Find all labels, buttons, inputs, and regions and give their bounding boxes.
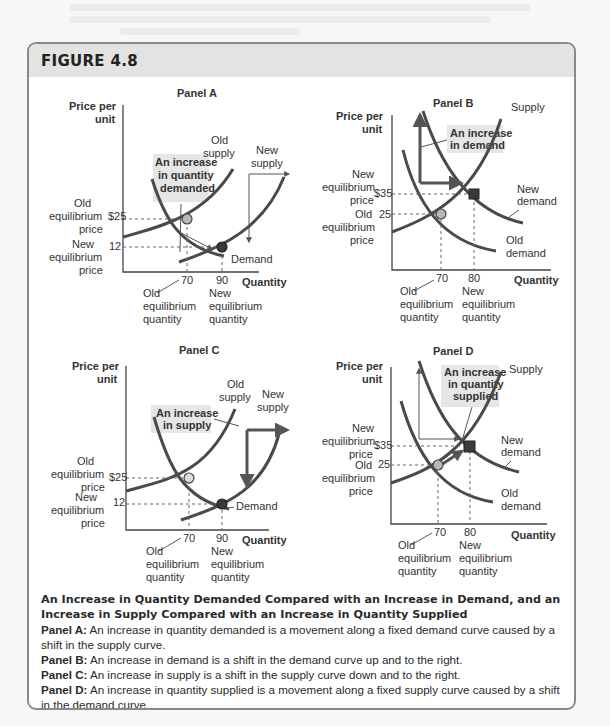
y-tick-caption: price (79, 264, 103, 276)
x-tick-caption: New (211, 545, 233, 557)
y-tick-caption: equilibrium (322, 181, 375, 193)
caption-panel-a: Panel A: An increase in quantity demande… (41, 622, 566, 652)
caption-text: An increase in demand is a shift in the … (87, 653, 462, 666)
y-tick-caption: price (350, 234, 374, 246)
curve-label: demand (501, 446, 541, 458)
figure-box: FIGURE 4.8 Panel A Price per unit An inc… (27, 42, 576, 710)
new-equilibrium-point (469, 189, 479, 199)
callout-text: An increase (156, 407, 218, 419)
guide-lines (392, 194, 474, 270)
y-tick-caption: equilibrium (49, 210, 102, 222)
x-tick-caption: equilibrium (209, 300, 262, 312)
curve-label: demand (506, 247, 546, 259)
y-tick-caption: equilibrium (49, 251, 102, 263)
caption-panel-d: Panel D: An increase in quantity supplie… (41, 682, 566, 710)
y-tick: 12 (109, 240, 121, 252)
caption-label: Panel D: (41, 683, 87, 696)
x-tick-caption: equilibrium (398, 552, 451, 564)
x-tick-caption: quantity (211, 571, 250, 583)
x-tick-caption: equilibrium (462, 298, 515, 310)
x-tick: 80 (464, 526, 476, 538)
curve-label: supply (257, 401, 289, 413)
y-axis-label-2: unit (95, 113, 115, 125)
panel-b: Panel B Price per unit An increase in de… (301, 77, 576, 327)
curve-label: Old (227, 378, 244, 390)
callout-text: in quantity (158, 169, 214, 181)
y-tick-caption: price (350, 194, 374, 206)
label-leader (509, 210, 519, 217)
curve-label: Demand (236, 500, 278, 512)
y-tick-caption: New (352, 168, 374, 180)
y-tick-caption: equilibrium (322, 435, 375, 447)
x-tick-caption: Old (146, 545, 163, 557)
callout-text: in demand (450, 139, 505, 151)
y-tick: $35 (374, 187, 392, 199)
curve-label: demand (501, 500, 541, 512)
caption-text: An increase in supply is a shift in the … (87, 668, 460, 681)
panel-title: Panel A (177, 87, 217, 99)
old-equilibrium-point (436, 209, 446, 219)
y-tick: 12 (113, 496, 125, 508)
x-tick: 80 (468, 272, 480, 284)
curve-label: Old (501, 487, 518, 499)
x-tick-caption: New (209, 287, 231, 299)
x-axis-label: Quantity (514, 274, 559, 286)
x-tick-caption: equilibrium (459, 552, 512, 564)
y-axis-label: Price per (336, 110, 384, 122)
x-tick: 70 (436, 272, 448, 284)
guide-lines (126, 504, 222, 530)
figure-title: FIGURE 4.8 (41, 52, 138, 70)
x-tick-caption: quantity (462, 311, 501, 323)
x-tick-caption: equilibrium (143, 300, 196, 312)
old-equilibrium-point (433, 460, 443, 470)
curve-label: New (501, 434, 523, 446)
x-tick: 70 (183, 532, 195, 544)
label-leader (229, 507, 234, 508)
x-tick-caption: equilibrium (211, 558, 264, 570)
background-text (120, 28, 300, 35)
y-tick-caption: Old (77, 455, 94, 467)
curve-label: New (517, 183, 539, 195)
y-axis-label: Price per (336, 360, 384, 372)
x-axis-label: Quantity (242, 534, 287, 546)
curve-label: Demand (231, 253, 273, 265)
x-tick-caption: Old (398, 539, 415, 551)
curve-label: New (256, 144, 278, 156)
curve-label: New (262, 388, 284, 400)
x-tick-caption: New (459, 539, 481, 551)
y-tick-caption: New (352, 422, 374, 434)
callout-text: An increase (444, 366, 506, 378)
x-tick-caption: equilibrium (400, 298, 453, 310)
y-tick-caption: price (81, 517, 105, 529)
callout-text: An increase (450, 127, 512, 139)
new-equilibrium-point (464, 441, 475, 452)
caption-text: An increase in quantity demanded is a mo… (41, 623, 555, 651)
y-tick-caption: price (349, 485, 373, 497)
y-axis-label-2: unit (362, 123, 382, 135)
x-tick-caption: Old (143, 287, 160, 299)
x-tick-caption: quantity (146, 571, 185, 583)
x-tick-caption: quantity (143, 313, 182, 325)
background-text (70, 16, 490, 23)
x-tick-caption: quantity (459, 565, 498, 577)
y-tick-caption: price (79, 223, 103, 235)
curve-label: Old (211, 134, 228, 146)
y-axis-label-2: unit (362, 373, 382, 385)
x-axis-label: Quantity (242, 276, 287, 288)
callout-text: in supply (163, 419, 212, 431)
x-tick-caption: equilibrium (146, 558, 199, 570)
caption-label: Panel A: (41, 623, 87, 636)
curve-label: Old (506, 234, 523, 246)
curve-label: Supply (511, 101, 545, 113)
y-tick: $25 (108, 210, 126, 222)
y-tick-caption: New (75, 491, 97, 503)
panel-title: Panel B (433, 97, 473, 109)
callout-leader (180, 204, 181, 252)
new-equilibrium-point (217, 242, 227, 252)
curve-label: Supply (509, 363, 543, 375)
background-text (70, 4, 530, 11)
new-equilibrium-point (217, 499, 227, 509)
x-axis-label: Quantity (511, 529, 556, 541)
caption-label: Panel C: (41, 668, 87, 681)
y-tick-caption: Old (355, 459, 372, 471)
